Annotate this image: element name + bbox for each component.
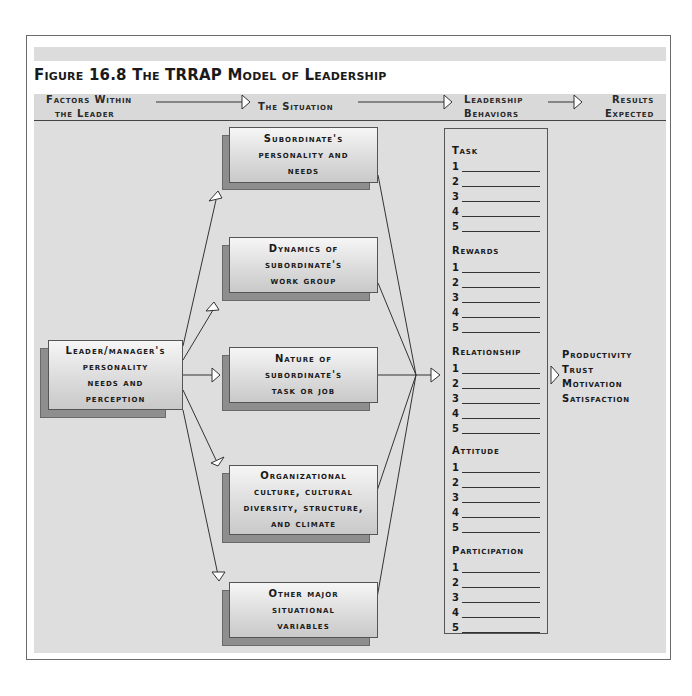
behavior-item: 1 bbox=[452, 462, 540, 473]
leader-box-line: personality bbox=[66, 359, 166, 375]
behavior-item: 4 bbox=[452, 206, 540, 217]
situation-box-line: Nature of bbox=[265, 351, 342, 367]
behavior-item: 4 bbox=[452, 607, 540, 618]
situation-box-line: subordinate's bbox=[265, 367, 342, 383]
situation-box-line: Other major bbox=[268, 586, 338, 602]
behavior-item: 5 bbox=[452, 522, 540, 533]
behavior-item: 4 bbox=[452, 507, 540, 518]
behavior-item: 4 bbox=[452, 408, 540, 419]
behavior-item: 3 bbox=[452, 492, 540, 503]
behavior-item: 3 bbox=[452, 592, 540, 603]
behavior-item: 2 bbox=[452, 277, 540, 288]
situation-box-personality: Subordinate's personality and needs bbox=[229, 127, 378, 183]
situation-box-line: task or job bbox=[265, 383, 342, 399]
situation-box-work-group: Dynamics of subordinate's work group bbox=[229, 237, 378, 293]
result-item: Satisfaction bbox=[562, 392, 632, 407]
behavior-category-relationship: Relationship bbox=[452, 346, 521, 357]
behavior-item: 4 bbox=[452, 307, 540, 318]
situation-box-task-or-job: Nature of subordinate's task or job bbox=[229, 347, 378, 403]
result-item: Trust bbox=[562, 363, 632, 378]
situation-box-line: and climate bbox=[243, 516, 363, 532]
behavior-item: 1 bbox=[452, 562, 540, 573]
behavior-category-participation: Participation bbox=[452, 545, 524, 556]
situation-box-line: personality and bbox=[258, 147, 348, 163]
behavior-item: 2 bbox=[452, 577, 540, 588]
behavior-item: 5 bbox=[452, 322, 540, 333]
behavior-item: 1 bbox=[452, 363, 540, 374]
behavior-item: 1 bbox=[452, 262, 540, 273]
situation-box-line: Organizational bbox=[243, 468, 363, 484]
results-list: Productivity Trust Motivation Satisfacti… bbox=[562, 348, 632, 406]
result-item: Productivity bbox=[562, 348, 632, 363]
result-item: Motivation bbox=[562, 377, 632, 392]
situation-box-line: Subordinate's bbox=[258, 131, 348, 147]
leader-box: Leader/manager's personality needs and p… bbox=[48, 340, 183, 410]
behavior-category-rewards: Rewards bbox=[452, 245, 499, 256]
situation-box-organizational: Organizational culture, cultural diversi… bbox=[229, 465, 378, 535]
behavior-category-task: Task bbox=[452, 145, 478, 156]
behavior-item: 2 bbox=[452, 477, 540, 488]
behavior-item: 3 bbox=[452, 393, 540, 404]
leader-box-line: perception bbox=[66, 391, 166, 407]
situation-box-line: subordinate's bbox=[265, 257, 342, 273]
leader-box-line: needs and bbox=[66, 375, 166, 391]
situation-box-line: needs bbox=[258, 163, 348, 179]
behavior-item: 5 bbox=[452, 622, 540, 633]
situation-box-line: culture, cultural bbox=[243, 484, 363, 500]
behavior-item: 5 bbox=[452, 423, 540, 434]
behavior-item: 1 bbox=[452, 161, 540, 172]
behavior-item: 2 bbox=[452, 176, 540, 187]
leader-box-line: Leader/manager's bbox=[66, 343, 166, 359]
behavior-item: 3 bbox=[452, 191, 540, 202]
situation-box-line: work group bbox=[265, 273, 342, 289]
situation-box-line: Dynamics of bbox=[265, 241, 342, 257]
situation-box-line: variables bbox=[268, 618, 338, 634]
behavior-item: 3 bbox=[452, 292, 540, 303]
behavior-item: 2 bbox=[452, 378, 540, 389]
situation-box-line: situational bbox=[268, 602, 338, 618]
situation-box-line: diversity, structure, bbox=[243, 500, 363, 516]
behavior-category-attitude: Attitude bbox=[452, 445, 500, 456]
behavior-item: 5 bbox=[452, 221, 540, 232]
situation-box-other-variables: Other major situational variables bbox=[229, 582, 378, 638]
